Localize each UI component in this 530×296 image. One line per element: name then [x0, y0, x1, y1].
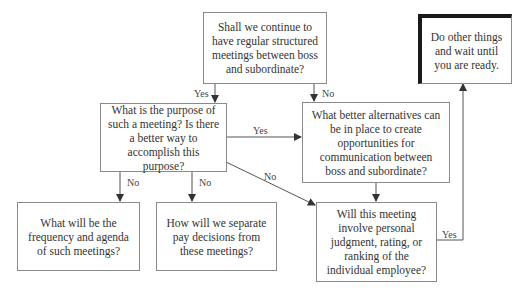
node-separate-pay: How will we separate pay decisions from …: [156, 202, 277, 271]
node-purpose-text: What is the purpose of such a meeting? I…: [107, 103, 220, 173]
node-separate-pay-text: How will we separate pay decisions from …: [163, 216, 270, 258]
edge-label-purpose-no-pay: No: [199, 177, 211, 188]
edge-label-purpose-yes: Yes: [253, 125, 268, 136]
edge-label-judgment-yes: Yes: [442, 229, 457, 240]
edge-label-purpose-no-judgment: No: [264, 171, 276, 182]
node-purpose: What is the purpose of such a meeting? I…: [100, 103, 227, 172]
node-wait: Do other things and wait until you are r…: [418, 14, 512, 84]
edge-label-start-no: No: [322, 88, 334, 99]
node-frequency: What will be the frequency and agenda of…: [17, 202, 140, 271]
flowchart-canvas: Shall we continue to have regular struct…: [0, 0, 530, 296]
node-wait-text: Do other things and wait until you are r…: [428, 30, 505, 72]
node-judgment: Will this meeting involve personal judgm…: [316, 202, 437, 282]
node-alternatives-text: What better alternatives can be in place…: [309, 108, 443, 178]
edge-label-purpose-no-frequency: No: [127, 177, 139, 188]
node-judgment-text: Will this meeting involve personal judgm…: [323, 207, 430, 277]
node-alternatives: What better alternatives can be in place…: [302, 102, 450, 183]
node-continue-meetings-text: Shall we continue to have regular struct…: [210, 20, 320, 76]
edge-label-start-yes: Yes: [194, 88, 209, 99]
node-continue-meetings: Shall we continue to have regular struct…: [203, 12, 327, 84]
node-frequency-text: What will be the frequency and agenda of…: [24, 216, 133, 258]
